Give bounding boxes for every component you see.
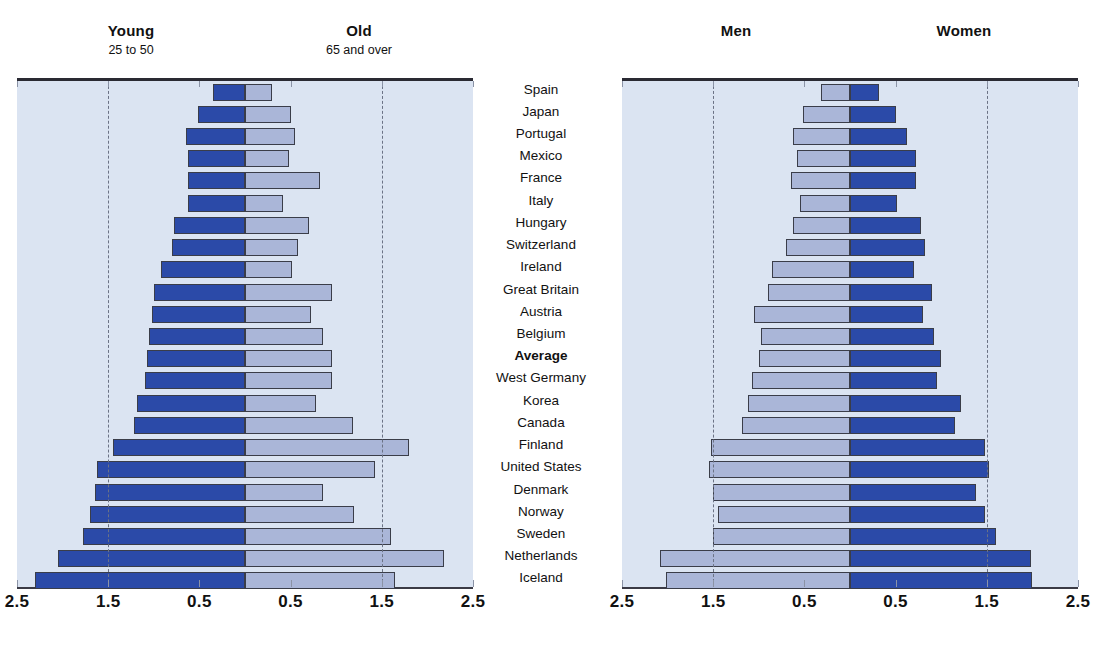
bar-segment-old <box>245 417 353 434</box>
bar-segment-young <box>188 195 245 212</box>
country-label: Canada <box>470 415 612 430</box>
axis-tick-mark <box>713 81 714 87</box>
women-header-group: Women <box>850 22 1078 42</box>
axis-tick-mark <box>199 81 200 87</box>
bar-row <box>17 172 473 189</box>
bar-row <box>17 572 473 589</box>
bar-segment-young <box>188 172 245 189</box>
bar-segment-young <box>137 395 245 412</box>
country-label: Iceland <box>470 570 612 585</box>
bar-row <box>622 284 1078 301</box>
bar-row <box>622 461 1078 478</box>
axis-tick-mark <box>896 580 897 587</box>
country-label: Sweden <box>470 526 612 541</box>
bar-segment-old <box>245 261 292 278</box>
bar-segment-women <box>850 306 923 323</box>
bar-segment-men <box>759 350 850 367</box>
bar-row <box>17 306 473 323</box>
men-women-panel: Men Women 2.51.50.50.51.52.5 <box>612 0 1102 648</box>
country-label: Finland <box>470 437 612 452</box>
bar-row <box>622 484 1078 501</box>
axis-tick-mark <box>17 81 18 87</box>
bar-segment-young <box>35 572 245 589</box>
axis-tick-mark <box>804 580 805 587</box>
bar-segment-women <box>850 195 897 212</box>
bar-segment-old <box>245 528 391 545</box>
bar-segment-young <box>186 128 245 145</box>
bar-segment-women <box>850 550 1031 567</box>
bar-segment-women <box>850 328 934 345</box>
men-header-group: Men <box>622 22 850 42</box>
axis-tick-label: 2.5 <box>1066 592 1091 612</box>
young-old-x-axis: 2.51.50.50.51.52.5 <box>17 592 473 622</box>
country-label: France <box>470 170 612 185</box>
men-title: Men <box>622 22 850 40</box>
bar-segment-women <box>850 417 955 434</box>
bar-row <box>17 328 473 345</box>
bar-row <box>17 395 473 412</box>
axis-tick-mark <box>291 81 292 87</box>
axis-tick-label: 1.5 <box>370 592 395 612</box>
bar-segment-young <box>113 439 245 456</box>
country-label: Portugal <box>470 126 612 141</box>
bar-segment-old <box>245 372 332 389</box>
bar-row <box>622 217 1078 234</box>
axis-tick-mark <box>382 580 383 587</box>
bar-row <box>622 372 1078 389</box>
axis-tick-mark <box>987 81 988 87</box>
bar-row <box>17 439 473 456</box>
bar-segment-young <box>147 350 245 367</box>
bar-row <box>622 350 1078 367</box>
bar-segment-women <box>850 217 921 234</box>
bar-segment-men <box>742 417 850 434</box>
axis-tick-mark <box>1078 81 1079 87</box>
country-label: Great Britain <box>470 282 612 297</box>
axis-tick-mark <box>199 580 200 587</box>
bar-segment-men <box>803 106 850 123</box>
bar-segment-women <box>850 506 985 523</box>
bar-segment-women <box>850 239 925 256</box>
bar-segment-old <box>245 439 409 456</box>
axis-tick-label: 2.5 <box>461 592 486 612</box>
bar-row <box>17 528 473 545</box>
bar-segment-old <box>245 550 444 567</box>
old-header-group: Old 65 and over <box>245 22 473 58</box>
bar-row <box>622 172 1078 189</box>
bar-segment-men <box>821 84 850 101</box>
axis-tick-mark <box>896 81 897 87</box>
bar-row <box>17 484 473 501</box>
bar-segment-old <box>245 284 332 301</box>
bar-row <box>622 550 1078 567</box>
bar-segment-women <box>850 128 907 145</box>
axis-tick-label: 2.5 <box>5 592 30 612</box>
bar-segment-men <box>709 461 850 478</box>
bar-row <box>622 239 1078 256</box>
country-label: Norway <box>470 504 612 519</box>
bar-segment-young <box>90 506 245 523</box>
men-women-plot-area <box>622 78 1078 589</box>
bar-segment-old <box>245 128 295 145</box>
axis-tick-mark <box>108 580 109 587</box>
bar-segment-old <box>245 461 375 478</box>
axis-tick-mark <box>1078 580 1079 587</box>
bar-segment-men <box>718 506 850 523</box>
bar-segment-old <box>245 328 323 345</box>
bar-segment-young <box>161 261 245 278</box>
bar-row <box>622 306 1078 323</box>
bar-segment-young <box>145 372 245 389</box>
bar-segment-young <box>95 484 245 501</box>
bar-segment-men <box>666 572 850 589</box>
bar-segment-old <box>245 195 283 212</box>
bar-segment-young <box>188 150 245 167</box>
country-label: United States <box>470 459 612 474</box>
bar-segment-men <box>711 439 850 456</box>
bar-row <box>17 461 473 478</box>
bar-segment-old <box>245 239 298 256</box>
bar-row <box>17 239 473 256</box>
country-label: Denmark <box>470 482 612 497</box>
bar-segment-women <box>850 106 896 123</box>
bar-segment-old <box>245 306 311 323</box>
bar-segment-men <box>752 372 850 389</box>
bar-segment-young <box>152 306 245 323</box>
gridline <box>987 81 988 587</box>
